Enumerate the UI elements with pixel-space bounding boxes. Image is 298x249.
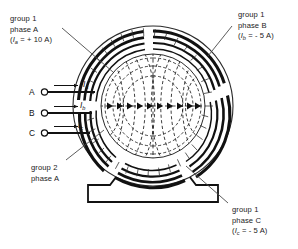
callout-group1-phase-b: group 1 phase B (Ib = - 5 A) [238, 10, 274, 43]
callout-group1-phase-c-line2: phase C [232, 216, 267, 227]
current-value: = - 5 A) [240, 226, 268, 235]
callout-group1-phase-c: group 1 phase C (Ic = - 5 A) [232, 205, 267, 238]
terminal-current-ia: Ia [83, 80, 88, 90]
current-subscript: b [82, 105, 85, 111]
current-value: = - 5 A) [246, 31, 274, 40]
callout-group1-phase-a: group 1 phase A (Ia = + 10 A) [10, 14, 52, 47]
callout-group2-phase-a-line2: phase A [31, 174, 59, 185]
terminal-label-a: A [29, 87, 35, 97]
terminal-label-b: B [29, 108, 35, 118]
terminal-current-ic: Ic [78, 121, 83, 131]
current-subscript: c [80, 125, 83, 131]
callout-group1-phase-c-line1: group 1 [232, 205, 267, 216]
callout-group1-phase-a-line1: group 1 [10, 14, 52, 25]
callout-group2-phase-a-line1: group 2 [31, 163, 59, 174]
callout-group1-phase-b-line2: phase B [238, 21, 274, 32]
callout-group1-phase-a-line2: phase A [10, 25, 52, 36]
callout-group1-phase-a-current: (Ia = + 10 A) [10, 35, 52, 47]
callout-group1-phase-b-line1: group 1 [238, 10, 274, 21]
callout-group1-phase-c-current: (Ic = - 5 A) [232, 226, 267, 238]
current-value: = + 10 A) [18, 35, 52, 44]
terminal-label-c: C [29, 128, 35, 138]
callout-group2-phase-a: group 2 phase A [31, 163, 59, 184]
figure-canvas: group 1 phase A (Ia = + 10 A) group 1 ph… [0, 0, 298, 249]
terminal-current-ib: Ib [80, 101, 85, 111]
callout-group1-phase-b-current: (Ib = - 5 A) [238, 31, 274, 43]
current-subscript: a [85, 84, 88, 90]
terminal-dots [41, 89, 47, 136]
